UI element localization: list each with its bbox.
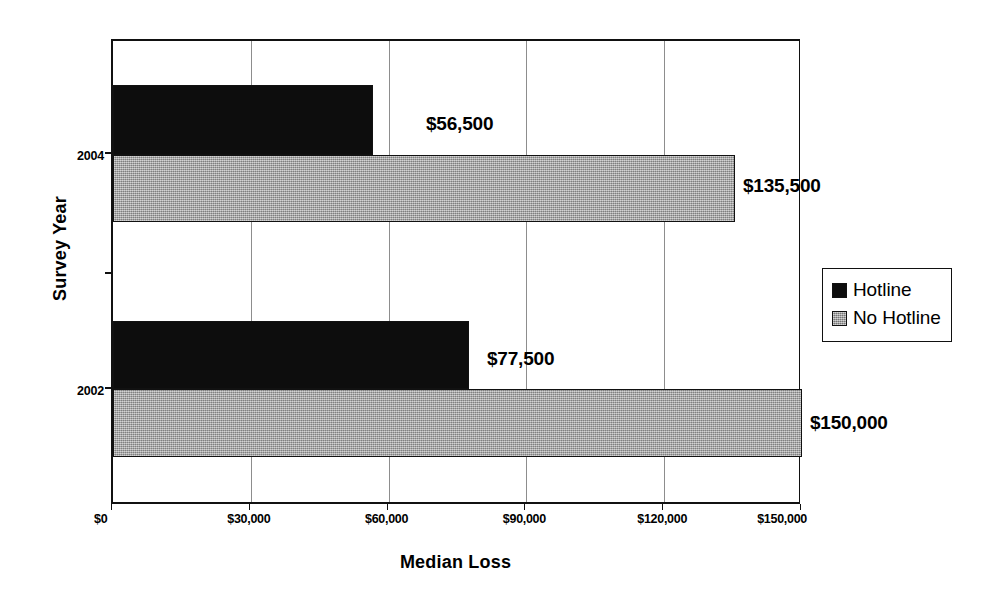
y-axis-title: Survey Year: [50, 149, 71, 349]
legend-item-hotline[interactable]: Hotline: [832, 276, 941, 304]
x-tick-mark-0: [111, 504, 112, 510]
y-tick-label-2004: 2004: [40, 146, 104, 164]
x-tick-label-0: $0: [94, 512, 107, 526]
x-tick-label-120000: $120,000: [637, 512, 687, 526]
chart-legend: Hotline No Hotline: [822, 268, 952, 342]
data-label-no-hotline-2002: $150,000: [810, 413, 888, 432]
bar-chart: Survey Year 2004 2002 $56,500 $135,500 $…: [0, 0, 990, 604]
x-tick-label-150000: $150,000: [757, 512, 807, 526]
x-tick-mark-30000: [249, 504, 250, 510]
y-tick-label-2002: 2002: [40, 381, 104, 399]
x-tick-mark-150000: [800, 504, 801, 510]
x-axis-title: Median Loss: [111, 552, 800, 573]
plot-area: [111, 39, 800, 504]
legend-label-hotline: Hotline: [853, 279, 911, 301]
bar-hotline-2004[interactable]: [113, 85, 373, 155]
y-tick-text: 2002: [77, 384, 104, 398]
bar-no-hotline-2002[interactable]: [113, 389, 802, 457]
bar-no-hotline-2004[interactable]: [113, 155, 735, 222]
legend-item-no-hotline[interactable]: No Hotline: [832, 304, 941, 332]
y-tick-text: 2004: [77, 149, 104, 163]
black-square-swatch-icon: [832, 283, 847, 298]
x-tick-mark-90000: [524, 504, 525, 510]
data-label-hotline-2004: $56,500: [426, 114, 493, 133]
x-tick-mark-120000: [662, 504, 663, 510]
legend-label-no-hotline: No Hotline: [853, 307, 941, 329]
data-label-hotline-2002: $77,500: [487, 349, 554, 368]
x-tick-label-30000: $30,000: [227, 512, 270, 526]
x-tick-label-90000: $90,000: [503, 512, 546, 526]
gray-hatched-square-swatch-icon: [832, 311, 847, 326]
data-label-no-hotline-2004: $135,500: [743, 176, 821, 195]
x-tick-mark-60000: [387, 504, 388, 510]
x-tick-label-60000: $60,000: [365, 512, 408, 526]
bar-hotline-2002[interactable]: [113, 321, 469, 389]
